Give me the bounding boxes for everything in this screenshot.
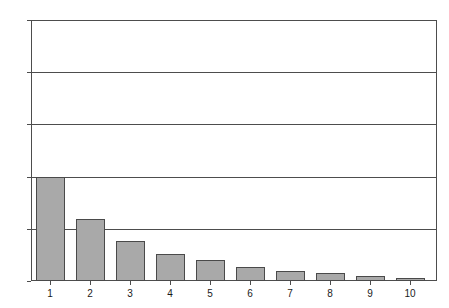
bar-8 — [316, 273, 345, 281]
x-axis-tick-label-5: 5 — [198, 288, 222, 299]
y-axis-tick-mark-0 — [27, 281, 31, 282]
x-axis-tick-mark-8 — [330, 281, 331, 285]
x-axis-tick-mark-4 — [170, 281, 171, 285]
x-axis-tick-mark-7 — [290, 281, 291, 285]
x-axis-tick-label-7: 7 — [278, 288, 302, 299]
x-axis-tick-mark-10 — [410, 281, 411, 285]
x-axis-tick-label-4: 4 — [158, 288, 182, 299]
x-axis-tick-label-1: 1 — [38, 288, 62, 299]
bar-3 — [116, 241, 145, 281]
x-axis-tick-label-6: 6 — [238, 288, 262, 299]
bar-6 — [236, 267, 265, 281]
x-axis-tick-label-2: 2 — [78, 288, 102, 299]
bars-layer — [32, 21, 436, 281]
x-axis-tick-label-10: 10 — [398, 288, 422, 299]
bar-7 — [276, 271, 305, 281]
x-axis-tick-mark-3 — [130, 281, 131, 285]
x-axis-tick-mark-5 — [210, 281, 211, 285]
x-axis-tick-mark-9 — [370, 281, 371, 285]
x-axis-tick-label-8: 8 — [318, 288, 342, 299]
bar-4 — [156, 254, 185, 281]
x-axis-tick-mark-1 — [50, 281, 51, 285]
bar-2 — [76, 219, 105, 281]
x-axis-tick-label-9: 9 — [358, 288, 382, 299]
x-axis-tick-mark-6 — [250, 281, 251, 285]
x-axis-tick-label-3: 3 — [118, 288, 142, 299]
bar-5 — [196, 260, 225, 281]
bar-chart: 1 0.8 0.6 0.4 0.2 0 1 2 3 4 5 — [0, 0, 449, 308]
bar-1 — [36, 177, 65, 281]
x-axis-tick-mark-2 — [90, 281, 91, 285]
